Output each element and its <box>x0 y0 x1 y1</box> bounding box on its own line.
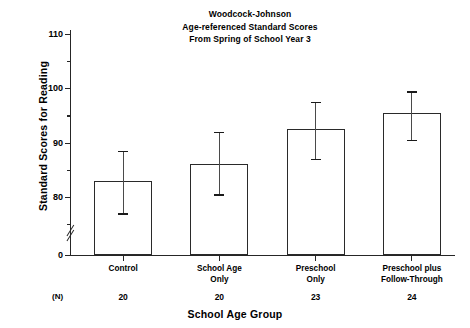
y-tick-label-0: 0 <box>58 250 63 260</box>
y-tick-label-100: 100 <box>48 83 63 93</box>
y-axis-title: Standard Scores for Reading <box>37 31 49 241</box>
x-tick-1 <box>219 256 220 261</box>
category-label-line-2-1: Only <box>296 275 336 286</box>
x-tick-2 <box>315 256 316 261</box>
category-label-line-3-1: Follow-Through <box>381 275 443 286</box>
y-minor-tick-105 <box>67 61 71 62</box>
x-axis-line <box>70 255 455 256</box>
sample-size-value-2: 23 <box>311 292 320 302</box>
error-bar-cap-upper-2 <box>311 102 321 104</box>
error-bar-cap-lower-3 <box>407 140 417 142</box>
error-bar-cap-upper-3 <box>407 91 417 93</box>
y-tick-0 <box>65 255 71 256</box>
chart-title-line-1: Woodcock-Johnson <box>150 8 350 21</box>
chart-figure: Woodcock-Johnson Age-referenced Standard… <box>0 0 470 328</box>
y-tick-label-80: 80 <box>53 192 63 202</box>
plot-area: 08090100110 <box>70 30 455 256</box>
category-label-line-1-1: Only <box>197 275 242 286</box>
axis-break-icon <box>64 226 78 242</box>
x-tick-0 <box>123 256 124 261</box>
error-bar-cap-lower-2 <box>311 159 321 161</box>
error-bar-cap-lower-1 <box>214 194 224 196</box>
error-bar-line-1 <box>219 132 220 194</box>
category-label-1: School AgeOnly <box>197 264 242 285</box>
category-label-line-1-0: School Age <box>197 264 242 275</box>
y-minor-tick-95 <box>67 115 71 116</box>
y-tick-100 <box>65 88 71 89</box>
category-label-3: Preschool plusFollow-Through <box>381 264 443 285</box>
sample-size-value-1: 20 <box>215 292 224 302</box>
y-tick-label-90: 90 <box>53 138 63 148</box>
y-tick-label-110: 110 <box>48 29 63 39</box>
y-minor-tick-75 <box>67 224 71 225</box>
sample-size-title: (N) <box>52 292 63 301</box>
category-label-line-0-0: Control <box>109 264 138 275</box>
error-bar-cap-lower-0 <box>118 213 128 215</box>
sample-size-value-3: 24 <box>407 292 416 302</box>
y-tick-90 <box>65 143 71 144</box>
category-label-line-3-0: Preschool plus <box>381 264 443 275</box>
error-bar-cap-upper-1 <box>214 132 224 134</box>
x-axis-title: School Age Group <box>0 308 470 320</box>
error-bar-line-0 <box>123 151 124 213</box>
error-bar-cap-upper-0 <box>118 151 128 153</box>
x-tick-3 <box>411 256 412 261</box>
category-label-0: Control <box>109 264 138 275</box>
y-minor-tick-85 <box>67 170 71 171</box>
category-label-2: PreschoolOnly <box>296 264 336 285</box>
sample-size-value-0: 20 <box>118 292 127 302</box>
error-bar-line-3 <box>411 91 412 140</box>
y-tick-80 <box>65 197 71 198</box>
category-label-line-2-0: Preschool <box>296 264 336 275</box>
y-tick-110 <box>65 34 71 35</box>
sample-size-row: (N) 20202324 <box>0 292 470 306</box>
error-bar-line-2 <box>315 102 316 159</box>
